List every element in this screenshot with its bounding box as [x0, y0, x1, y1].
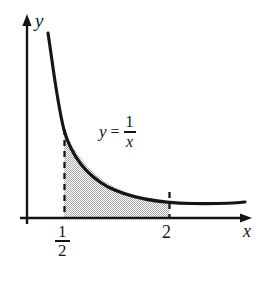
curve-equation-label: y = 1 x [99, 114, 136, 150]
equation-numerator: 1 [124, 114, 136, 131]
equation-denominator: x [124, 133, 135, 150]
tick-label-one-half: 1 2 [55, 223, 70, 259]
tick-numerator: 1 [55, 223, 70, 240]
figure-container: y x y = 1 x 1 2 2 [0, 0, 273, 289]
equation-operator: = [111, 123, 120, 141]
equation-fraction: 1 x [124, 114, 136, 150]
axis-label-y: y [35, 11, 43, 30]
vertical-axis [22, 14, 31, 224]
figure-canvas [0, 0, 273, 289]
arrowhead-icon [22, 14, 31, 26]
tick-fraction: 1 2 [55, 223, 70, 259]
tick-label-two: 2 [162, 223, 171, 241]
tick-denominator: 2 [55, 242, 70, 259]
axis-label-x: x [243, 222, 251, 240]
equation-lhs: y [99, 122, 107, 142]
